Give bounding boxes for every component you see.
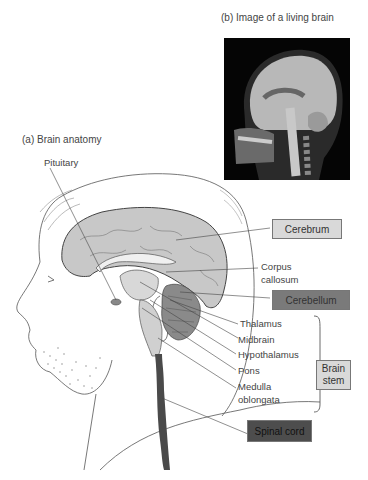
- brain-anatomy-drawing: [0, 0, 368, 480]
- brain-stem-label: Brain stem: [316, 360, 351, 390]
- brain-stem-label-line2: stem: [323, 375, 345, 387]
- cerebrum-label: Cerebrum: [272, 219, 342, 239]
- pons-label: Pons: [238, 364, 260, 377]
- cerebellum-label: Cerebellum: [272, 290, 350, 310]
- brain-stem-label-line1: Brain: [322, 363, 345, 375]
- spinal-cord-label: Spinal cord: [247, 420, 312, 442]
- corpus-callosum-label-line1: Corpus: [261, 260, 292, 273]
- thalamus-label: Thalamus: [240, 317, 282, 330]
- hypothalamus-label: Hypothalamus: [238, 348, 299, 361]
- medulla-label-line1: Medulla: [238, 380, 271, 393]
- corpus-callosum-label-line2: callosum: [261, 273, 299, 286]
- midbrain-label: Midbrain: [238, 333, 274, 346]
- medulla-label-line2: oblongata: [238, 393, 280, 406]
